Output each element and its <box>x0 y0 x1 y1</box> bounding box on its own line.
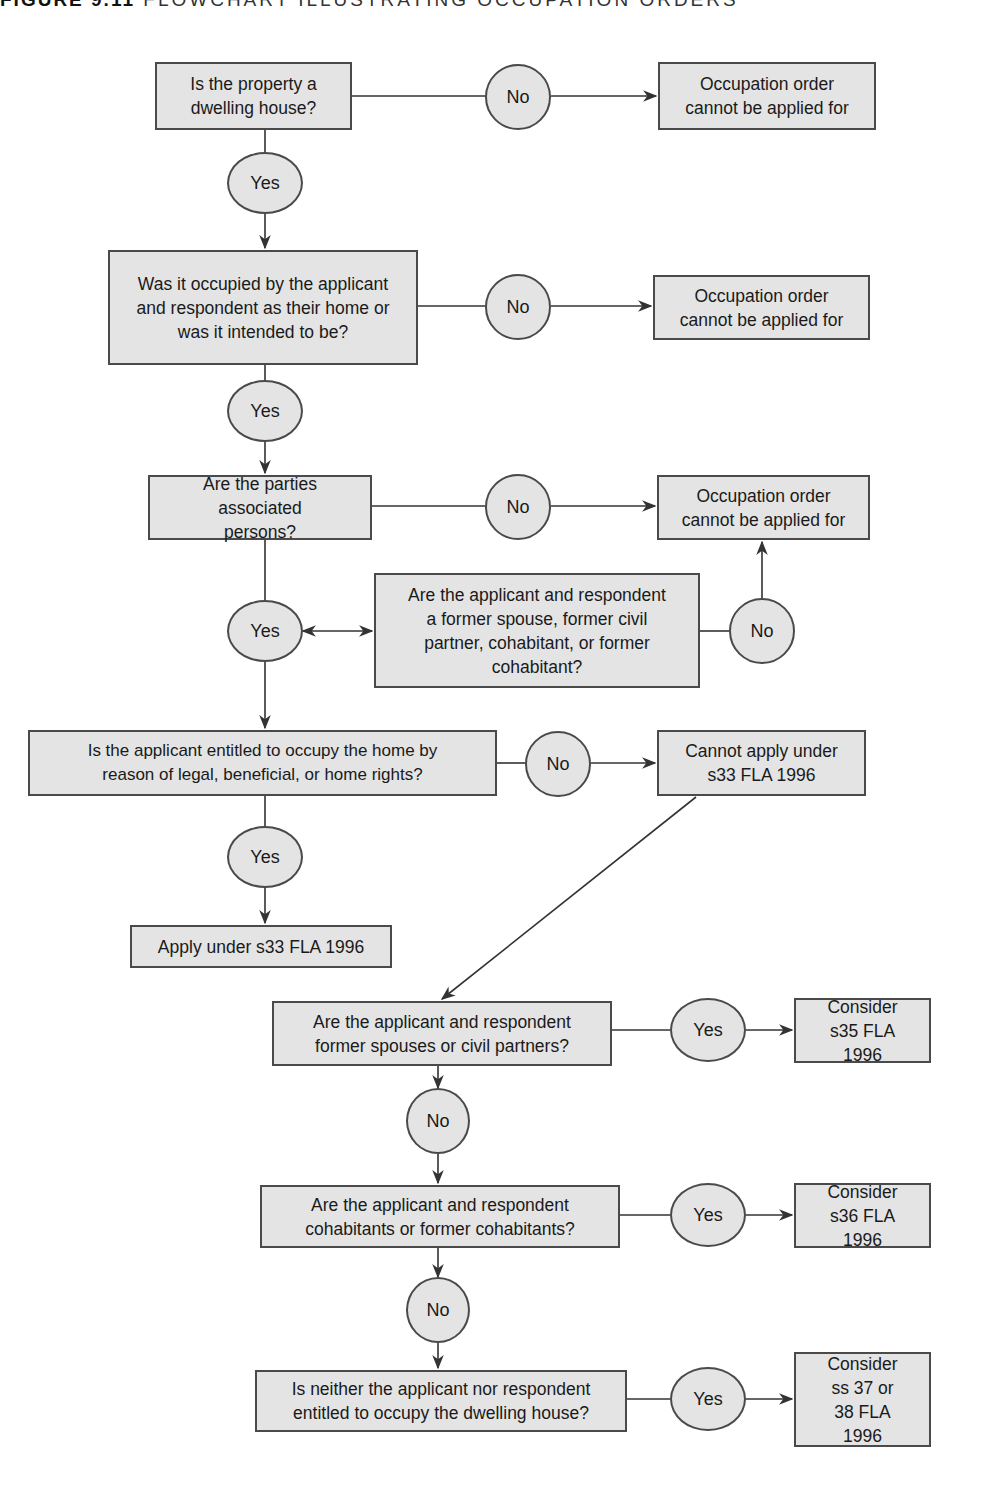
node-label: No <box>426 1300 449 1321</box>
node-yes-3: Yes <box>227 600 303 662</box>
decision-text: Are the applicant and respondent former … <box>300 1010 584 1058</box>
node-yes-1: Yes <box>227 152 303 214</box>
decision-text: Are the applicant and respondent a forme… <box>404 583 670 679</box>
node-label: Yes <box>693 1020 722 1041</box>
decision-dwelling-house: Is the property a dwelling house? <box>155 62 352 130</box>
outcome-text: Occupation order cannot be applied for <box>680 72 854 120</box>
node-label: Yes <box>250 401 279 422</box>
decision-text: Is neither the applicant nor respondent … <box>279 1377 603 1425</box>
node-label: Yes <box>693 1205 722 1226</box>
decision-neither-entitled: Is neither the applicant nor respondent … <box>255 1370 627 1432</box>
node-label: No <box>426 1111 449 1132</box>
decision-cohabitants: Are the applicant and respondent cohabit… <box>260 1185 620 1248</box>
node-label: No <box>506 87 529 108</box>
outcome-text: Apply under s33 FLA 1996 <box>158 935 364 959</box>
node-label: No <box>546 754 569 775</box>
node-yes-4: Yes <box>227 826 303 888</box>
outcome-consider-s37-s38: Consider ss 37 or 38 FLA 1996 <box>794 1352 931 1447</box>
node-no-4: No <box>525 731 591 797</box>
node-label: Yes <box>250 621 279 642</box>
node-label: Yes <box>250 173 279 194</box>
decision-text: Are the applicant and respondent cohabit… <box>288 1193 592 1241</box>
node-no-3: No <box>485 474 551 540</box>
decision-text: Are the parties associated persons? <box>180 472 340 544</box>
node-yes-6: Yes <box>670 1183 746 1247</box>
outcome-apply-s33: Apply under s33 FLA 1996 <box>130 925 392 968</box>
decision-former-spouses-civil-partners: Are the applicant and respondent former … <box>272 1001 612 1066</box>
decision-occupied-as-home: Was it occupied by the applicant and res… <box>108 250 418 365</box>
node-no-1: No <box>485 64 551 130</box>
outcome-text: Consider s36 FLA 1996 <box>814 1180 911 1252</box>
outcome-text: Cannot apply under s33 FLA 1996 <box>681 739 842 787</box>
decision-text: Is the applicant entitled to occupy the … <box>70 739 455 787</box>
decision-associated-persons: Are the parties associated persons? <box>148 475 372 540</box>
node-no-6: No <box>406 1277 470 1343</box>
node-no-3b: No <box>729 598 795 664</box>
outcome-consider-s35: Consider s35 FLA 1996 <box>794 998 931 1063</box>
decision-former-spouse-cohabitant: Are the applicant and respondent a forme… <box>374 573 700 688</box>
outcome-cannot-apply-2: Occupation order cannot be applied for <box>653 275 870 340</box>
outcome-cannot-apply-1: Occupation order cannot be applied for <box>658 62 876 130</box>
decision-entitled-to-occupy: Is the applicant entitled to occupy the … <box>28 730 497 796</box>
node-label: Yes <box>693 1389 722 1410</box>
outcome-text: Occupation order cannot be applied for <box>675 284 848 332</box>
node-yes-7: Yes <box>670 1367 746 1431</box>
node-no-2: No <box>485 274 551 340</box>
outcome-text: Consider s35 FLA 1996 <box>814 995 911 1067</box>
outcome-text: Occupation order cannot be applied for <box>677 484 850 532</box>
node-label: No <box>506 497 529 518</box>
node-no-5: No <box>406 1088 470 1154</box>
outcome-consider-s36: Consider s36 FLA 1996 <box>794 1183 931 1248</box>
node-label: No <box>506 297 529 318</box>
outcome-cannot-apply-s33: Cannot apply under s33 FLA 1996 <box>657 730 866 796</box>
node-yes-2: Yes <box>227 380 303 442</box>
outcome-text: Consider ss 37 or 38 FLA 1996 <box>822 1352 903 1448</box>
decision-text: Was it occupied by the applicant and res… <box>128 272 398 344</box>
node-label: No <box>750 621 773 642</box>
node-yes-5: Yes <box>670 998 746 1062</box>
decision-text: Is the property a dwelling house? <box>163 72 344 120</box>
outcome-cannot-apply-3: Occupation order cannot be applied for <box>657 475 870 540</box>
node-label: Yes <box>250 847 279 868</box>
